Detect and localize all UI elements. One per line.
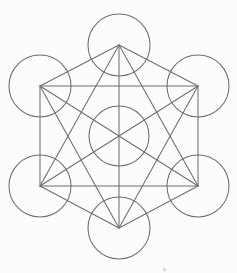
- metatrons-cube-diagram: [0, 0, 237, 273]
- scan-speck-0: [163, 268, 166, 271]
- specks-layer: [163, 268, 166, 271]
- figure-canvas: [0, 0, 237, 273]
